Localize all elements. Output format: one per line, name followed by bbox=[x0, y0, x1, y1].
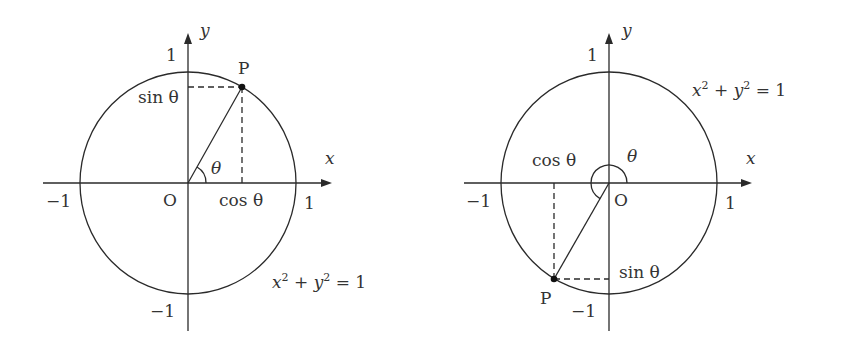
cos-theta-label: cos θ bbox=[219, 192, 263, 209]
tick-label-minus-1-x: −1 bbox=[46, 193, 71, 210]
y-axis-arrow-icon bbox=[184, 33, 192, 44]
circle-equation: x2 + y2 = 1 bbox=[692, 80, 786, 99]
theta-label: θ bbox=[627, 148, 637, 165]
x-axis-label: x bbox=[746, 150, 756, 167]
tick-label-minus-1-x: −1 bbox=[466, 193, 491, 210]
tick-label-1-x: 1 bbox=[304, 195, 315, 212]
tick-label-1-y: 1 bbox=[587, 47, 598, 64]
point-P-dot bbox=[239, 84, 246, 91]
point-P-label: P bbox=[540, 290, 551, 307]
y-axis-label: y bbox=[200, 22, 210, 39]
tick-label-1-y: 1 bbox=[166, 47, 177, 64]
tick-label-minus-1-y: −1 bbox=[571, 303, 596, 320]
y-axis-arrow-icon bbox=[605, 33, 613, 44]
cos-theta-label: cos θ bbox=[532, 152, 576, 169]
origin-label: O bbox=[163, 192, 177, 209]
theta-arc bbox=[197, 167, 206, 183]
unit-circle-diagrams bbox=[0, 0, 841, 352]
circle-equation: x2 + y2 = 1 bbox=[272, 272, 366, 291]
point-P-label: P bbox=[238, 60, 249, 77]
diagram-third-quadrant bbox=[464, 33, 752, 331]
tick-label-minus-1-y: −1 bbox=[150, 303, 175, 320]
radius-OP bbox=[554, 183, 609, 279]
y-axis-label: y bbox=[622, 22, 632, 39]
origin-label: O bbox=[614, 192, 628, 209]
sin-theta-label: sin θ bbox=[619, 264, 660, 281]
x-axis-label: x bbox=[325, 150, 335, 167]
x-axis-arrow-icon bbox=[321, 179, 332, 187]
x-axis-arrow-icon bbox=[741, 179, 752, 187]
tick-label-1-x: 1 bbox=[725, 195, 736, 212]
sin-theta-label: sin θ bbox=[138, 89, 179, 106]
theta-label: θ bbox=[211, 160, 221, 177]
point-P-dot bbox=[551, 276, 558, 283]
